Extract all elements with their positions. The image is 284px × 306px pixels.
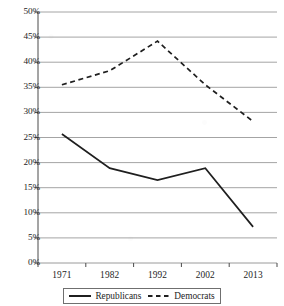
legend-swatch-dashed-line-icon — [148, 293, 170, 299]
x-axis-tick-label: 2002 — [196, 270, 215, 280]
legend-swatch-solid-line-icon — [69, 293, 91, 299]
x-axis-tick-label: 1971 — [52, 270, 71, 280]
legend-label-democrats: Democrats — [174, 291, 214, 301]
legend-entry-republicans: Republicans — [69, 291, 141, 301]
x-axis-tick-labels: 19711982199220022013 — [0, 0, 284, 306]
legend-entry-democrats: Democrats — [148, 291, 214, 301]
line-chart: 0%5%10%15%20%25%30%35%40%45%50% 19711982… — [0, 0, 284, 306]
x-axis-tick-label: 1992 — [148, 270, 167, 280]
x-axis-tick-label: 1982 — [100, 270, 119, 280]
x-axis-tick-label: 2013 — [244, 270, 263, 280]
chart-legend: Republicans Democrats — [63, 288, 221, 304]
legend-label-republicans: Republicans — [95, 291, 141, 301]
